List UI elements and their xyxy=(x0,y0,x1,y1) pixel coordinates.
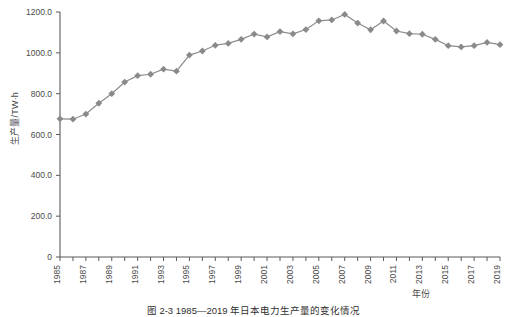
svg-text:2003: 2003 xyxy=(285,265,295,284)
svg-text:1987: 1987 xyxy=(78,265,88,284)
line-chart-plot: 0200.0400.0600.0800.01000.01200.0 198519… xyxy=(0,0,507,300)
svg-text:200.0: 200.0 xyxy=(31,211,53,221)
x-axis-label: 年份 xyxy=(0,287,430,300)
figure-caption: 图 2-3 1985—2019 年日本电力生产量的变化情况 xyxy=(0,303,507,317)
svg-text:1993: 1993 xyxy=(156,265,166,284)
svg-text:2015: 2015 xyxy=(440,265,450,284)
svg-text:1997: 1997 xyxy=(207,265,217,284)
svg-text:2017: 2017 xyxy=(466,265,476,284)
svg-text:800.0: 800.0 xyxy=(31,89,53,99)
svg-text:2005: 2005 xyxy=(311,265,321,284)
svg-text:1000.0: 1000.0 xyxy=(26,48,52,58)
svg-text:2011: 2011 xyxy=(388,265,398,284)
svg-text:2007: 2007 xyxy=(337,265,347,284)
svg-text:1989: 1989 xyxy=(104,265,114,284)
x-tick-labels: 1985198719891991199319951997199920012003… xyxy=(52,265,502,284)
svg-text:2013: 2013 xyxy=(414,265,424,284)
svg-text:1991: 1991 xyxy=(130,265,140,284)
y-axis-label: 生产量/TW·h xyxy=(8,59,21,179)
svg-text:1985: 1985 xyxy=(52,265,62,284)
svg-text:1999: 1999 xyxy=(233,265,243,284)
data-markers xyxy=(57,11,504,123)
svg-text:0: 0 xyxy=(47,252,52,262)
svg-text:2009: 2009 xyxy=(363,265,373,284)
svg-text:400.0: 400.0 xyxy=(31,170,53,180)
x-tick-marks xyxy=(60,257,500,261)
svg-text:600.0: 600.0 xyxy=(31,130,53,140)
svg-text:2019: 2019 xyxy=(492,265,502,284)
y-tick-marks xyxy=(56,12,60,257)
y-tick-labels: 0200.0400.0600.0800.01000.01200.0 xyxy=(26,7,52,262)
svg-text:2001: 2001 xyxy=(259,265,269,284)
svg-text:1995: 1995 xyxy=(181,265,191,284)
svg-text:1200.0: 1200.0 xyxy=(26,7,52,17)
